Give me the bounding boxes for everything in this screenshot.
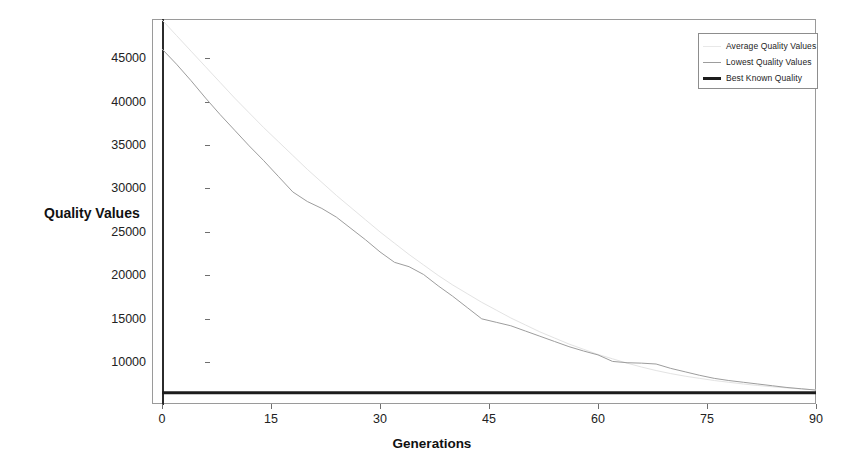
legend-line-icon-best-known: [702, 72, 722, 84]
x-tick-label: 60: [578, 412, 618, 426]
x-tick-label: 90: [796, 412, 836, 426]
x-tick-label: 15: [251, 412, 291, 426]
x-tick-label: 30: [360, 412, 400, 426]
legend-item-average: Average Quality Values: [699, 38, 817, 54]
x-tick-label: 45: [469, 412, 509, 426]
legend-line-icon-lowest: [702, 56, 722, 68]
legend-label-average: Average Quality Values: [726, 41, 816, 51]
x-tick-mark: [816, 404, 817, 409]
y-tick-label: 30000: [66, 182, 146, 194]
y-tick-label: 40000: [66, 96, 146, 108]
y-tick-label: 10000: [66, 356, 146, 368]
y-axis-title: Quality Values: [44, 205, 164, 221]
x-tick-mark: [380, 404, 381, 409]
x-tick-label: 75: [687, 412, 727, 426]
y-tick-label: 20000: [66, 269, 146, 281]
x-tick-mark: [598, 404, 599, 409]
x-tick-label: 0: [142, 412, 182, 426]
x-tick-mark: [162, 404, 163, 409]
x-tick-mark: [707, 404, 708, 409]
legend-item-best-known: Best Known Quality: [699, 70, 817, 86]
legend-line-icon-average: [702, 40, 722, 52]
x-tick-mark: [271, 404, 272, 409]
y-tick-label: 35000: [66, 139, 146, 151]
series-line-lowest-quality: [162, 49, 816, 390]
legend-label-lowest: Lowest Quality Values: [726, 57, 812, 67]
y-tick-label: 25000: [66, 226, 146, 238]
legend-item-lowest: Lowest Quality Values: [699, 54, 817, 70]
chart-legend: Average Quality Values Lowest Quality Va…: [698, 33, 818, 89]
y-tick-label: 45000: [66, 52, 146, 64]
x-axis-title: Generations: [0, 436, 864, 451]
x-tick-mark: [489, 404, 490, 409]
quality-convergence-chart: 1000015000200002500030000350004000045000…: [0, 0, 864, 470]
legend-label-best-known: Best Known Quality: [726, 73, 802, 83]
y-axis-ticks: 1000015000200002500030000350004000045000: [58, 0, 146, 470]
y-tick-label: 15000: [66, 313, 146, 325]
